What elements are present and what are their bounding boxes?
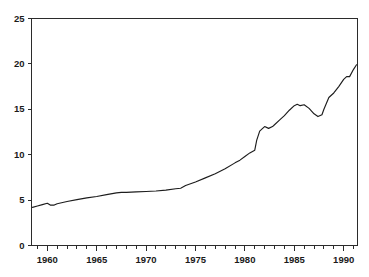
x-tick-label-1990: 1990	[333, 254, 354, 265]
y-tick-label-0: 0	[19, 240, 24, 251]
y-tick-label-20: 20	[14, 58, 25, 69]
y-tick-label-10: 10	[14, 149, 25, 160]
y-axis: 0510152025	[14, 13, 32, 251]
x-tick-label-1985: 1985	[284, 254, 306, 265]
x-axis-labels: 1960196519701975198019851990	[37, 254, 355, 265]
x-tick-label-1970: 1970	[136, 254, 157, 265]
data-line-1	[32, 65, 356, 208]
x-axis-minor-ticks	[37, 246, 353, 252]
chart-container: 05101520251960196519701975198019851990	[0, 0, 369, 277]
y-tick-label-5: 5	[19, 194, 25, 205]
x-tick-label-1965: 1965	[86, 254, 108, 265]
x-tick-label-1980: 1980	[234, 254, 255, 265]
y-tick-label-15: 15	[14, 103, 25, 114]
x-tick-label-1960: 1960	[37, 254, 58, 265]
line-chart: 05101520251960196519701975198019851990	[0, 0, 369, 277]
y-tick-label-25: 25	[14, 13, 25, 24]
x-tick-label-1975: 1975	[185, 254, 207, 265]
plot-frame	[32, 19, 358, 246]
